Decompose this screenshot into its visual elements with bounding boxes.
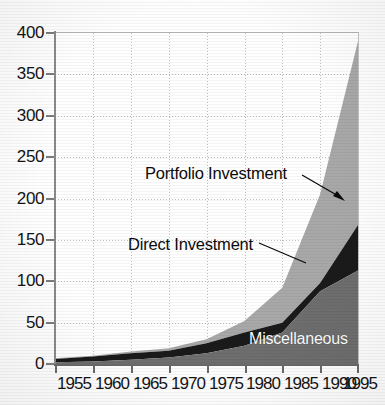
y-axis-label: 0 (2, 354, 44, 374)
chart-container: 400 350 300 250 200 150 100 50 0 (0, 0, 385, 405)
x-axis-tick (93, 364, 95, 373)
x-axis-tick (55, 364, 57, 373)
x-axis-label: 1955 (57, 374, 91, 394)
y-axis-label: 350 (2, 64, 44, 84)
y-axis-label: 400 (2, 23, 44, 43)
y-axis-label: 50 (2, 313, 44, 333)
x-axis-label: 1995 (343, 374, 377, 394)
annotation-arrow-portfolio (300, 172, 348, 204)
annotation-leader-direct (258, 241, 308, 267)
x-axis-label: 1960 (95, 374, 129, 394)
x-axis-tick (131, 364, 133, 373)
annotation-miscellaneous: Miscellaneous (249, 330, 348, 348)
x-axis-tick (169, 364, 171, 373)
y-axis-line (54, 31, 56, 366)
x-axis-tick (357, 364, 359, 373)
x-axis-tick (282, 364, 284, 373)
x-axis-label: 1980 (246, 374, 280, 394)
y-axis-label: 150 (2, 230, 44, 250)
x-axis-tick (320, 364, 322, 373)
x-axis-tick (207, 364, 209, 373)
y-axis-label: 300 (2, 106, 44, 126)
annotation-portfolio-investment: Portfolio Investment (145, 164, 287, 183)
x-axis-label: 1975 (209, 374, 243, 394)
x-axis-label: 1965 (133, 374, 167, 394)
x-axis-label: 1985 (284, 374, 318, 394)
y-axis-label: 250 (2, 147, 44, 167)
annotation-direct-investment: Direct Investment (128, 235, 253, 254)
x-axis-tick (245, 364, 247, 373)
plot-frame-right (358, 32, 359, 365)
x-axis-label: 1970 (171, 374, 205, 394)
y-axis-label: 200 (2, 189, 44, 209)
y-axis-label: 100 (2, 271, 44, 291)
plot-frame-top (55, 32, 359, 33)
